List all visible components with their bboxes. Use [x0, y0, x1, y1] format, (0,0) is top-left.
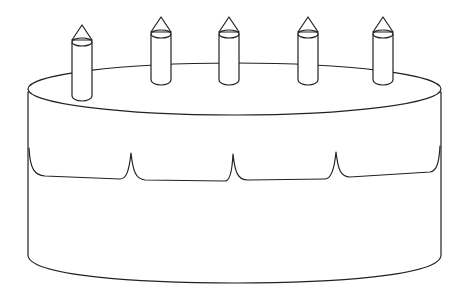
candle-1 [72, 25, 92, 101]
cake-body [28, 92, 441, 283]
candle-4 [298, 17, 318, 85]
candle-2 [151, 17, 171, 85]
cake-illustration: Birthday cake line drawing [0, 0, 464, 299]
candle-3 [219, 17, 239, 85]
candle-5 [373, 17, 393, 85]
